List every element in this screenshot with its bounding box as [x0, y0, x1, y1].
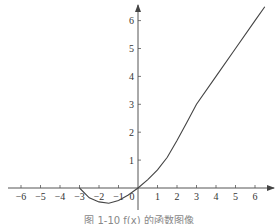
x-tick-label: 2	[175, 191, 180, 202]
x-tick-label: −3	[74, 191, 85, 202]
x-tick-label: −6	[16, 191, 27, 202]
figure-caption: 图 1-10 f(x) 的函数图像	[0, 214, 278, 224]
function-plot: −6−5−4−3−2−10123456 123456	[0, 0, 278, 224]
y-tick-label: 3	[129, 99, 134, 110]
y-tick-label: 2	[129, 127, 134, 138]
y-ticks: 123456	[129, 15, 141, 166]
x-tick-label: 5	[233, 191, 238, 202]
y-tick-label: 5	[129, 43, 134, 54]
y-tick-label: 1	[129, 155, 134, 166]
x-tick-label: 4	[214, 191, 219, 202]
x-tick-label: −4	[55, 191, 66, 202]
y-tick-label: 6	[129, 15, 134, 26]
function-curve	[80, 7, 265, 204]
y-tick-label: 4	[129, 71, 134, 82]
x-tick-label: 6	[253, 191, 258, 202]
x-tick-label: 1	[155, 191, 160, 202]
x-tick-label: 3	[194, 191, 199, 202]
x-tick-label: −5	[35, 191, 46, 202]
